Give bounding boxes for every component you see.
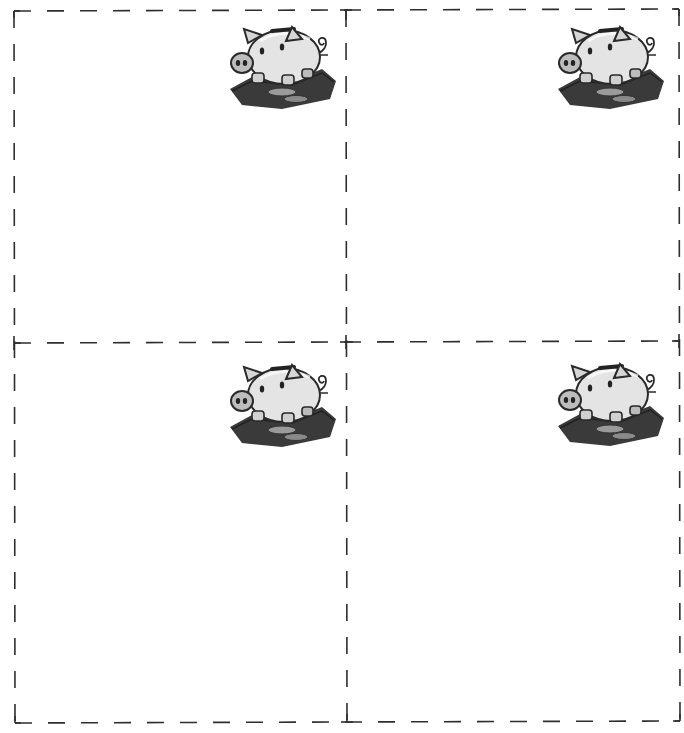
piggy-bank-icon xyxy=(550,356,668,448)
printable-card-sheet xyxy=(0,0,684,733)
cut-line-right xyxy=(679,9,680,721)
card-top-left xyxy=(15,11,346,343)
card-bottom-left xyxy=(15,343,346,723)
card-top-right xyxy=(347,10,679,342)
card-bottom-right xyxy=(347,342,679,722)
piggy-bank-icon xyxy=(222,19,340,111)
piggy-bank-icon xyxy=(550,19,668,111)
piggy-bank-icon xyxy=(222,357,340,449)
